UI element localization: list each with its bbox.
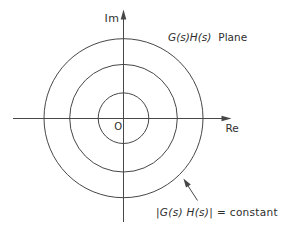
annotation-math: |G(s) H(s)| xyxy=(156,206,213,219)
ghs-plane-canvas: Im Re O G(s)H(s)Plane |G(s) H(s)|= const… xyxy=(0,0,286,228)
ghs-plane-figure: Im Re O G(s)H(s)Plane |G(s) H(s)|= const… xyxy=(0,0,286,228)
origin-label: O xyxy=(114,121,122,132)
constant-magnitude-annotation: |G(s) H(s)|= constant xyxy=(156,206,278,219)
annotation-arrowhead-icon xyxy=(183,179,190,188)
plane-title-math: G(s)H(s) xyxy=(168,31,211,43)
annotation-pointer xyxy=(183,179,197,201)
re-axis-label: Re xyxy=(226,122,239,134)
im-axis-label: Im xyxy=(105,12,120,25)
annotation-rest: = constant xyxy=(217,206,278,218)
re-axis-arrowhead-icon xyxy=(222,116,232,122)
plane-title-word: Plane xyxy=(218,31,247,43)
plane-title: G(s)H(s)Plane xyxy=(168,31,247,43)
annotation-pointer-line xyxy=(187,184,198,201)
im-axis: Im xyxy=(105,10,127,223)
im-axis-arrowhead-icon xyxy=(121,10,127,20)
re-axis: Re xyxy=(13,116,239,134)
